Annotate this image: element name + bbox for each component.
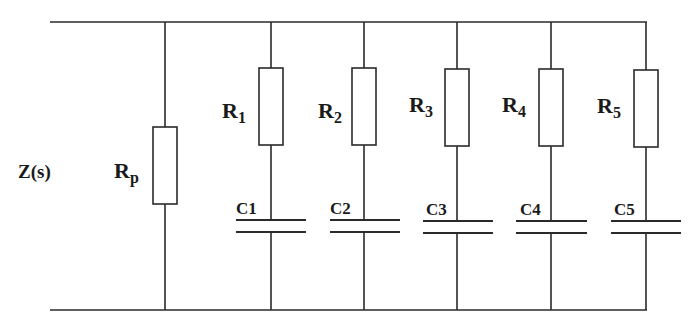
rc-branch-4: R4 C4 [502, 22, 587, 310]
resistor-r2 [352, 68, 376, 145]
circuit-diagram: Z(s) Rp R1 C1 R2 C2 R3 C3 [0, 0, 694, 331]
c4-label: C4 [520, 200, 541, 219]
r1-label: R1 [222, 98, 246, 126]
resistor-r1 [259, 68, 283, 145]
rp-label: Rp [114, 158, 139, 187]
rc-branch-3: R3 C3 [409, 22, 493, 310]
r3-label: R3 [409, 92, 433, 120]
rc-branch-5: R5 C5 [597, 22, 681, 310]
c1-label: C1 [236, 199, 257, 218]
r5-label: R5 [597, 93, 621, 121]
r4-label: R4 [502, 92, 526, 120]
c5-label: C5 [614, 200, 635, 219]
resistor-r4 [539, 69, 563, 146]
resistor-rp [153, 127, 177, 204]
c3-label: C3 [426, 200, 447, 219]
resistor-r3 [445, 69, 469, 146]
rc-branch-2: R2 C2 [318, 22, 400, 310]
rc-branch-1: R1 C1 [222, 22, 306, 310]
parallel-resistor-branch: Rp [114, 22, 177, 310]
impedance-label: Z(s) [18, 161, 51, 183]
resistor-r5 [634, 70, 658, 147]
c2-label: C2 [330, 199, 351, 218]
r2-label: R2 [318, 98, 342, 126]
